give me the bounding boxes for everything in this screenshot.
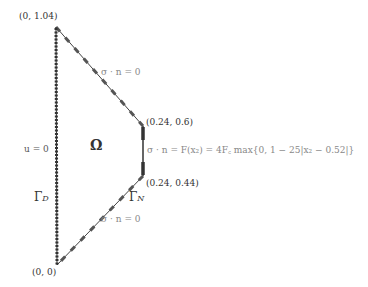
domain-omega-label: Ω — [90, 138, 102, 152]
vertex-label-top-left: (0, 1.04) — [19, 12, 58, 21]
bottom-edge-condition: σ · n = 0 — [101, 215, 141, 224]
domain-diagram — [0, 0, 368, 287]
right-edge-condition: σ · n = F(x₂) = 4F꜀ max{0, 1 − 25|x₂ − 0… — [147, 146, 354, 155]
gamma-d-label: ΓD — [34, 191, 49, 203]
vertex-label-right-bottom: (0.24, 0.44) — [146, 179, 199, 188]
vertex-label-bottom-left: (0, 0) — [32, 268, 56, 277]
dirichlet-condition-label: u = 0 — [24, 145, 49, 154]
vertex-label-right-top: (0.24, 0.6) — [146, 118, 193, 127]
gamma-n-label: ΓN — [129, 191, 144, 203]
top-edge-condition: σ · n = 0 — [101, 68, 141, 77]
